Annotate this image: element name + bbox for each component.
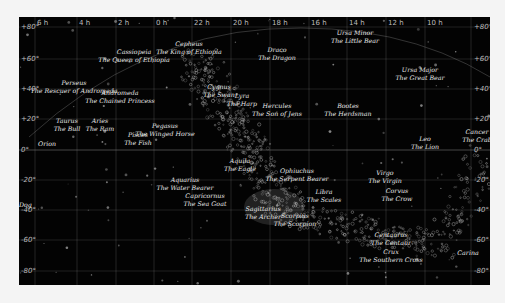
- constellation-meaning: The King of Ethiopia: [156, 48, 222, 56]
- constellation-label[interactable]: TaurusThe Bull: [54, 117, 81, 133]
- constellation-label[interactable]: CepheusThe King of Ethiopia: [156, 40, 222, 56]
- star: [218, 99, 220, 101]
- constellation-name: Orion: [38, 140, 56, 148]
- constellation-label[interactable]: CancerThe Crab: [462, 128, 490, 144]
- constellation-label[interactable]: LibraThe Scales: [307, 188, 342, 204]
- star: [418, 240, 420, 242]
- star: [362, 237, 363, 238]
- star: [188, 76, 189, 77]
- constellation-name: Taurus: [54, 117, 81, 125]
- star: [367, 217, 370, 220]
- constellation-label[interactable]: CruxThe Southern Cross: [359, 248, 423, 264]
- constellation-name: Virgo: [368, 169, 402, 177]
- star: [223, 61, 225, 63]
- star: [201, 69, 202, 70]
- constellation-label[interactable]: AquariusThe Water Bearer: [157, 176, 214, 192]
- star: [257, 173, 258, 174]
- star: [189, 103, 192, 106]
- star: [238, 123, 241, 126]
- constellation-label[interactable]: PegasusThe Winged Horse: [135, 122, 194, 138]
- star: [436, 85, 437, 86]
- star: [229, 131, 231, 133]
- star: [198, 62, 200, 64]
- constellation-label[interactable]: CentaurusThe Centaur: [371, 231, 411, 247]
- star: [456, 239, 458, 241]
- star: [246, 112, 247, 113]
- star: [197, 85, 200, 88]
- constellation-label[interactable]: AndromedaThe Chained Princess: [85, 89, 154, 105]
- constellation-label[interactable]: CorvusThe Crow: [382, 187, 413, 203]
- star: [400, 227, 402, 229]
- constellation-name: Libra: [307, 188, 342, 196]
- star: [161, 279, 163, 281]
- star: [382, 132, 384, 134]
- star: [240, 184, 241, 185]
- constellation-label[interactable]: Orion: [38, 140, 56, 148]
- star: [239, 118, 241, 120]
- star: [347, 272, 350, 275]
- star: [103, 105, 105, 107]
- constellation-label[interactable]: AquilaThe Eagle: [224, 157, 256, 173]
- star: [56, 272, 57, 273]
- star: [72, 135, 74, 137]
- star: [462, 207, 464, 209]
- star: [336, 229, 338, 231]
- star: [383, 20, 385, 22]
- star-map[interactable]: 6 h4 h2 h0 h22 h20 h18 h16 h14 h12 h10 h…: [19, 17, 490, 285]
- star: [166, 87, 168, 89]
- constellation-name: Cancer: [462, 128, 490, 136]
- star: [447, 86, 448, 87]
- constellation-label[interactable]: CapricornusThe Sea Goat: [184, 192, 227, 208]
- constellation-label[interactable]: LeoThe Lion: [411, 135, 439, 151]
- star: [455, 265, 457, 267]
- constellation-label[interactable]: Ursa MinorThe Little Bear: [331, 29, 379, 45]
- star: [252, 129, 254, 131]
- star: [255, 151, 258, 154]
- star: [401, 162, 403, 164]
- star: [240, 113, 242, 115]
- star: [329, 230, 331, 232]
- star: [317, 230, 318, 231]
- dec-label-left: +60°: [21, 55, 39, 63]
- star: [456, 222, 458, 224]
- star: [232, 118, 235, 121]
- star: [214, 124, 216, 126]
- constellation-label[interactable]: BootesThe Herdsman: [324, 102, 371, 118]
- constellation-label[interactable]: Carina: [457, 249, 478, 257]
- star: [173, 17, 175, 19]
- star: [347, 232, 348, 233]
- star: [431, 254, 432, 255]
- star: [231, 150, 233, 152]
- dec-label-right: -40°: [474, 206, 489, 214]
- constellation-label[interactable]: OphiuchusThe Serpent Bearer: [265, 167, 328, 183]
- constellation-label[interactable]: ScorpiusThe Scorpion: [274, 212, 317, 228]
- star: [340, 224, 342, 226]
- star: [151, 184, 153, 186]
- constellation-name: Crux: [359, 248, 423, 256]
- star: [372, 219, 374, 221]
- constellation-name: Ophiuchus: [265, 167, 328, 175]
- dec-label-right: 0°: [474, 146, 482, 154]
- constellation-label[interactable]: Big Dog: [19, 201, 32, 209]
- ra-label: 4 h: [79, 19, 90, 27]
- constellation-name: Big Dog: [19, 201, 32, 209]
- star: [236, 144, 238, 146]
- star: [312, 207, 313, 208]
- star: [315, 103, 318, 106]
- constellation-meaning: The Queen of Ethiopia: [98, 56, 170, 64]
- star: [232, 137, 235, 140]
- constellation-label[interactable]: VirgoThe Virgin: [368, 169, 402, 185]
- star: [235, 111, 238, 114]
- star: [223, 124, 224, 125]
- star: [122, 192, 124, 194]
- star: [377, 118, 380, 121]
- dec-label-right: -80°: [474, 267, 489, 275]
- constellation-label[interactable]: AriesThe Ram: [86, 117, 115, 133]
- star: [235, 115, 236, 116]
- star: [257, 182, 259, 184]
- constellation-label[interactable]: HerculesThe Son of Jens: [252, 102, 302, 118]
- constellation-label[interactable]: Ursa MajorThe Great Bear: [395, 66, 444, 82]
- constellation-label[interactable]: DracoThe Dragon: [258, 46, 296, 62]
- star: [345, 227, 348, 230]
- star: [433, 254, 436, 257]
